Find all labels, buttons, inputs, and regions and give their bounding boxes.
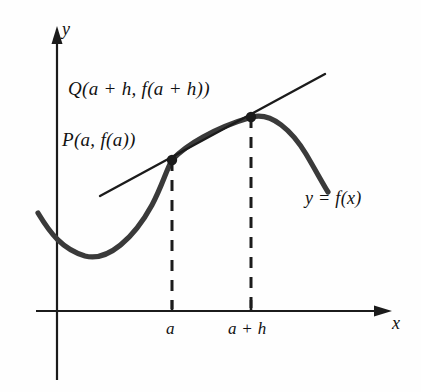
point-p-label: P(a, f(a)) xyxy=(62,130,136,149)
x-axis-label: x xyxy=(392,314,400,332)
x-axis-arrowhead xyxy=(374,306,392,317)
curve-equation-label: y = f(x) xyxy=(305,189,362,207)
x-tick-label-a: a xyxy=(166,320,175,337)
point-q-label: Q(a + h, f(a + h)) xyxy=(68,79,210,98)
point-p-marker xyxy=(167,155,177,165)
figure-canvas: Q(a + h, f(a + h)) P(a, f(a)) y = f(x) y… xyxy=(0,0,421,392)
point-q-marker xyxy=(246,112,256,122)
x-tick-label-a-plus-h: a + h xyxy=(228,320,266,337)
y-axis-arrowhead xyxy=(52,26,63,44)
y-axis-label: y xyxy=(62,20,70,38)
